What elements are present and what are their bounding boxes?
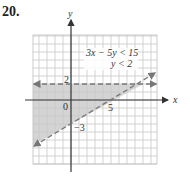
label-5: 5	[108, 102, 113, 113]
legend-ineq1: 3x − 5y < 15	[85, 47, 138, 58]
legend-ineq2: y < 2	[110, 58, 132, 69]
x-axis-label: x	[172, 94, 178, 105]
graph: 3x − 5y < 15 y < 2 x y 0 2 5 −3	[0, 0, 190, 180]
origin-label: 0	[63, 101, 68, 112]
label-2: 2	[64, 74, 69, 85]
label-neg3: −3	[74, 122, 85, 133]
shaded-region	[33, 84, 143, 145]
y-axis-label: y	[67, 8, 73, 19]
